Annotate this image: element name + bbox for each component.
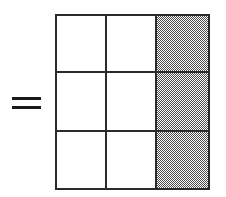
- grid-cell: [107, 73, 157, 132]
- grid-cell: [55, 132, 107, 190]
- grid-cell: [107, 14, 157, 73]
- grid-cell-shaded: [157, 132, 210, 190]
- equals-sign-lower-bar: [12, 106, 41, 109]
- grid-cell: [55, 14, 107, 73]
- fraction-model-figure: [0, 0, 226, 197]
- grid-cell-shaded: [157, 73, 210, 132]
- grid-cell: [107, 132, 157, 190]
- equals-sign: [12, 97, 41, 110]
- grid-cell-shaded: [157, 14, 210, 73]
- three-by-three-grid: [55, 14, 210, 190]
- equals-sign-upper-bar: [12, 97, 41, 100]
- grid-cell: [55, 73, 107, 132]
